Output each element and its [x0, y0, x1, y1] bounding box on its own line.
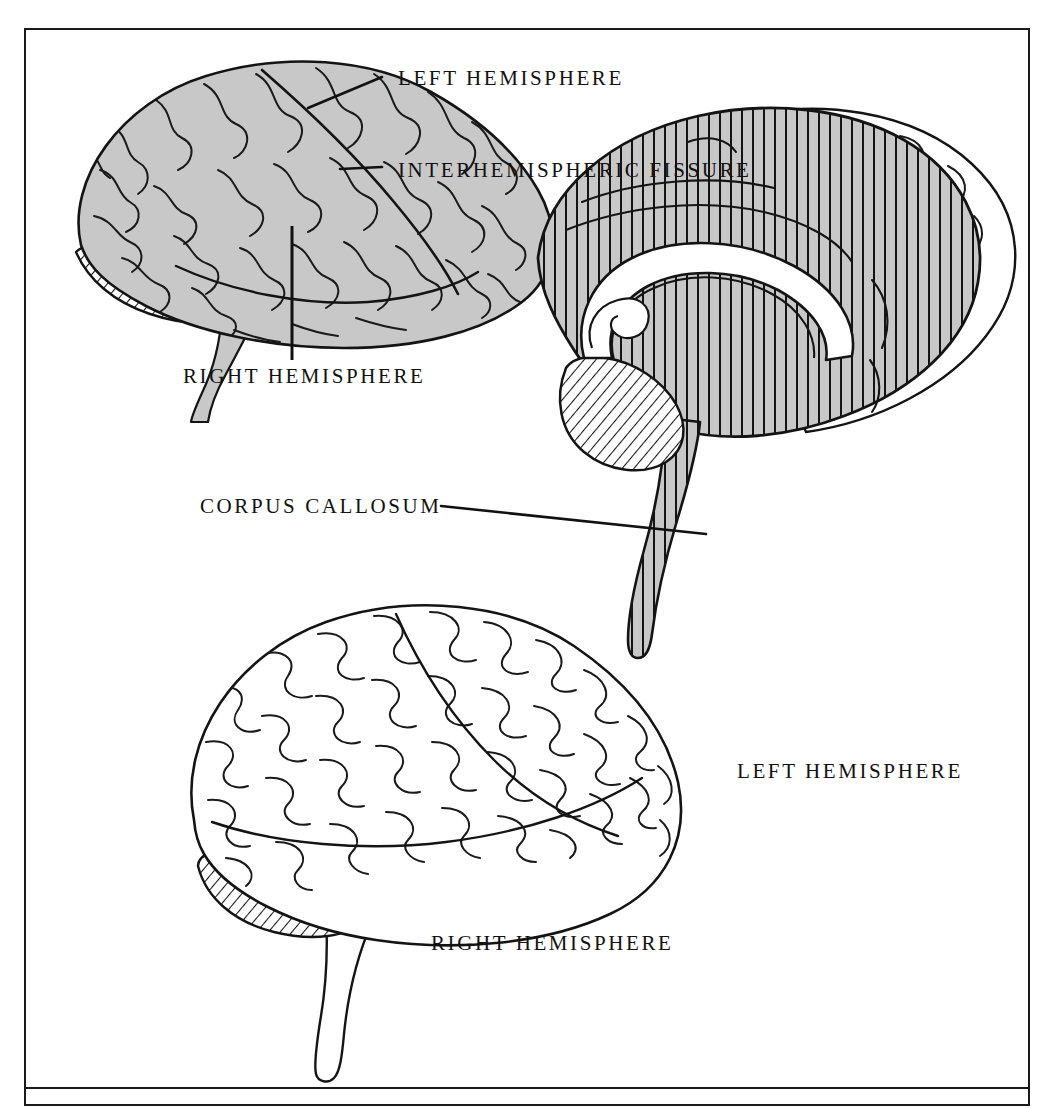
figure-page: LEFT HEMISPHERE INTERHEMISPHERIC FISSURE…	[0, 0, 1060, 1108]
label-left-hemisphere-top: LEFT HEMISPHERE	[398, 68, 624, 89]
label-right-hemisphere-top: RIGHT HEMISPHERE	[183, 366, 425, 387]
label-corpus-callosum: CORPUS CALLOSUM	[200, 496, 441, 517]
sagittal-brain-illustration	[538, 108, 1015, 658]
bottom-brain-illustration	[191, 605, 681, 1081]
caption-divider-rule	[26, 1087, 1030, 1089]
figure-frame: LEFT HEMISPHERE INTERHEMISPHERIC FISSURE…	[24, 28, 1030, 1106]
bottom-brain-cerebrum	[191, 605, 681, 945]
label-right-hemisphere-bottom: RIGHT HEMISPHERE	[431, 933, 673, 954]
label-interhemispheric-fissure: INTERHEMISPHERIC FISSURE	[398, 160, 752, 181]
label-left-hemisphere-sagittal: LEFT HEMISPHERE	[737, 761, 963, 782]
figure-caption	[42, 1098, 1016, 1106]
